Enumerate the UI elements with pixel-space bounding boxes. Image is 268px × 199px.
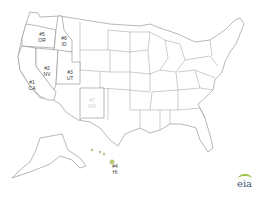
state-hi[interactable] <box>91 149 114 164</box>
label-id-abbr: ID <box>62 41 67 47</box>
state-ak[interactable] <box>12 134 86 178</box>
label-ut-abbr: UT <box>67 75 74 81</box>
label-hi-abbr: HI <box>113 169 118 175</box>
us-map: #5 OR #6 ID #2 NV #3 UT #1 CA #7 NM #4 H… <box>0 0 268 199</box>
eia-logo: eia <box>237 178 252 189</box>
label-ca-abbr: CA <box>29 85 37 91</box>
label-nv-abbr: NV <box>44 71 52 77</box>
label-or-abbr: OR <box>38 37 46 43</box>
label-nm-abbr: NM <box>88 103 96 109</box>
